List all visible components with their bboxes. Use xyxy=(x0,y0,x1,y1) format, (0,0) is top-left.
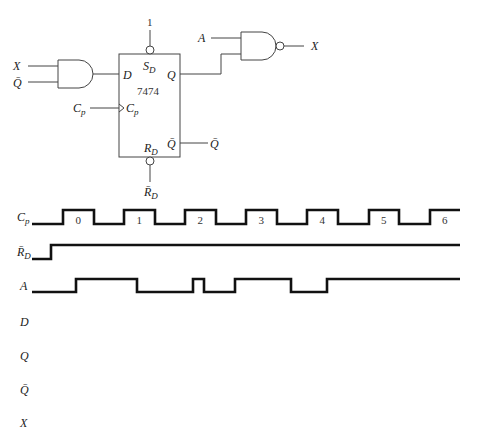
clock-pulse-number: 2 xyxy=(198,214,204,226)
clock-pulse-number: 5 xyxy=(381,214,387,226)
reset-inversion-bubble xyxy=(146,157,154,165)
reset-input-label: R̄D xyxy=(143,185,158,201)
clock-pulse-number: 6 xyxy=(442,214,448,226)
waveform-a xyxy=(32,279,460,292)
nand-gate: A X xyxy=(197,31,319,60)
clock-pulse-number: 0 xyxy=(76,214,82,226)
and-input-x-label: X xyxy=(12,59,21,73)
pin-d-label: D xyxy=(122,68,132,82)
and-gate: X Q̄ xyxy=(12,59,119,90)
clock-pulse-number: 3 xyxy=(259,214,265,226)
d-flip-flop-7474: 1 SD RD R̄D D Q 7474 Cp Cp Q̄ Q̄ xyxy=(73,16,241,201)
and-input-qbar-label: Q̄ xyxy=(13,76,22,90)
clock-pulse-numbers: 0123456 xyxy=(76,214,449,226)
pin-qbar-label: Q̄ xyxy=(167,137,176,151)
circuit-schematic: X Q̄ 1 SD RD R̄D D Q 7474 Cp Cp xyxy=(12,16,319,201)
signal-label-d: D xyxy=(19,315,29,329)
waveform-cp xyxy=(32,210,460,224)
signal-label-qbar: Q̄ xyxy=(20,383,29,397)
timing-diagram: Cp R̄D A D Q Q̄ X 0123456 xyxy=(16,210,460,430)
clock-pulse-number: 1 xyxy=(137,214,143,226)
signal-label-cp: Cp xyxy=(17,210,30,226)
clock-pulse-number: 4 xyxy=(320,214,326,226)
nand-input-a-label: A xyxy=(197,31,206,45)
signal-label-a: A xyxy=(19,279,28,293)
set-input-value: 1 xyxy=(147,16,153,28)
clock-input-label: Cp xyxy=(73,101,86,117)
pin-q-label: Q xyxy=(167,68,176,82)
signal-label-rd: R̄D xyxy=(16,245,31,261)
nand-output-x-label: X xyxy=(310,39,319,53)
chip-number: 7474 xyxy=(137,85,160,97)
signal-label-q: Q xyxy=(20,349,29,363)
logic-diagram: X Q̄ 1 SD RD R̄D D Q 7474 Cp Cp xyxy=(0,0,477,446)
set-inversion-bubble xyxy=(146,46,154,54)
nand-inversion-bubble xyxy=(276,42,284,50)
qbar-output-label: Q̄ xyxy=(210,137,219,151)
waveform-rd xyxy=(32,245,460,259)
signal-label-x: X xyxy=(19,416,28,430)
